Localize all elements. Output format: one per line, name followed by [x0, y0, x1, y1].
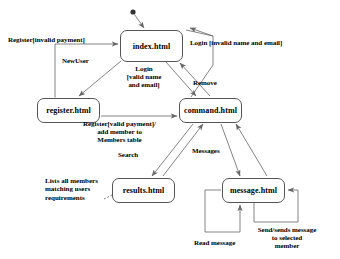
edge-label-login-valid: Login [valid name and email] — [118, 65, 170, 90]
edge-command-to-message — [221, 124, 240, 176]
edge-index-to-command — [166, 62, 196, 96]
state-node-message[interactable]: message.html — [222, 178, 285, 203]
state-node-command[interactable]: command.html — [179, 98, 242, 123]
state-label-register: register.html — [46, 106, 91, 115]
edge-label-read-message: Read message — [194, 239, 235, 247]
state-label-index: index.html — [133, 42, 171, 51]
edge-message-to-command — [236, 124, 267, 176]
edge-label-login-invalid: Login [invalid name and email] — [190, 39, 282, 47]
state-label-command: command.html — [184, 106, 237, 115]
edge-label-register-invalid-payment: Register[invalid payment] — [8, 36, 85, 44]
note-results-description: Lists all members matching users require… — [45, 177, 98, 202]
edge-label-send-message: Send/sends message to selected member — [242, 226, 332, 251]
edge-label-messages: Messages — [192, 147, 220, 155]
note-anchor-line — [104, 195, 112, 199]
edge-start-to-index — [135, 15, 145, 29]
state-label-results: results.html — [123, 186, 165, 195]
state-node-index[interactable]: index.html — [120, 30, 183, 62]
state-node-results[interactable]: results.html — [112, 178, 175, 203]
edge-label-search: Search — [118, 151, 138, 159]
edge-label-register-valid-payment: Register[valid payment]/ add member to M… — [62, 120, 177, 145]
state-diagram-canvas: index.html register.html command.html re… — [0, 0, 340, 259]
edge-label-remove: Remove — [193, 79, 217, 87]
state-label-message: message.html — [230, 186, 277, 195]
edge-label-new-user: NewUser — [62, 57, 89, 65]
initial-state-marker — [130, 9, 135, 14]
edge-index-to-register — [79, 61, 121, 96]
